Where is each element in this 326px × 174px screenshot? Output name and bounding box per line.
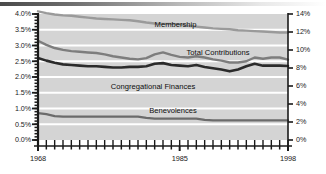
x-axis-tick-label: 1985 <box>160 154 200 163</box>
left-axis-tick-label: 2.5% <box>1 57 31 66</box>
chart-figure: 4.0%3.5%3.0%2.5%2.0%1.5%1.0%0.5%0.0%14%1… <box>0 0 326 174</box>
series-label-membership: Membership <box>155 20 197 29</box>
right-axis-tick-label: 0% <box>296 135 326 144</box>
x-axis-tick-label: 1968 <box>18 154 58 163</box>
series-label-total-contributions: Total Contributions <box>187 47 250 56</box>
right-axis-tick-label: 2% <box>296 117 326 126</box>
series-label-congregational-finances: Congregational Finances <box>111 81 195 90</box>
left-axis-tick-label: 3.5% <box>1 25 31 34</box>
right-axis-tick-label: 4% <box>296 99 326 108</box>
chart-plot-container: 4.0%3.5%3.0%2.5%2.0%1.5%1.0%0.5%0.0%14%1… <box>0 8 326 174</box>
series-label-benevolences: Benevolences <box>149 105 197 114</box>
left-axis-tick-label: 1.0% <box>1 104 31 113</box>
right-axis-tick-label: 12% <box>296 27 326 36</box>
left-axis-tick-label: 0.5% <box>1 120 31 129</box>
x-axis-tick-label: 1998 <box>268 154 308 163</box>
left-axis-tick-label: 3.0% <box>1 41 31 50</box>
left-axis-tick-label: 1.5% <box>1 88 31 97</box>
right-axis-tick-label: 8% <box>296 63 326 72</box>
right-axis-tick-label: 6% <box>296 81 326 90</box>
left-axis-tick-label: 0.0% <box>1 135 31 144</box>
right-axis-tick-label: 10% <box>296 45 326 54</box>
decorative-top-rule <box>0 2 326 6</box>
chart-svg <box>0 8 326 174</box>
left-axis-tick-label: 2.0% <box>1 72 31 81</box>
left-axis-tick-label: 4.0% <box>1 9 31 18</box>
right-axis-tick-label: 14% <box>296 9 326 18</box>
